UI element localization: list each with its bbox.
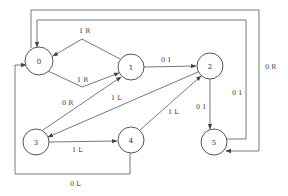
edge-label-2-to-3: 1 L xyxy=(111,94,122,102)
node-3: 3 xyxy=(23,129,49,155)
edge-label-4-to-2: 1 L xyxy=(168,108,179,116)
node-1: 1 xyxy=(118,54,144,80)
edge-label-1-to-2: 0 1 xyxy=(161,56,171,64)
edge-label-4-to-0: 0 L xyxy=(70,180,81,188)
edge-4-to-0 xyxy=(15,65,130,174)
edge-label-0-to-5: 0 R xyxy=(265,63,277,71)
node-5: 5 xyxy=(201,129,227,155)
edge-label-1-to-0: 1 R xyxy=(79,27,91,35)
edge-5-to-0 xyxy=(37,20,246,139)
state-diagram: 1 R 1 R 0 1 0 R 1 L 1 L 1 L 0 1 0 1 0 R … xyxy=(0,0,288,196)
node-label-1: 1 xyxy=(129,64,133,72)
edge-label-3-to-1: 0 R xyxy=(62,99,74,107)
node-label-4: 4 xyxy=(129,137,134,145)
edge-label-3-to-4: 1 L xyxy=(72,146,83,154)
edge-label-0-to-1: 1 R xyxy=(77,76,89,84)
node-2: 2 xyxy=(197,53,223,79)
node-label-0: 0 xyxy=(37,58,41,66)
edge-3-to-4 xyxy=(49,141,117,142)
edge-1-to-2 xyxy=(144,66,196,67)
node-label-3: 3 xyxy=(34,139,38,147)
node-label-5: 5 xyxy=(212,139,216,147)
node-0: 0 xyxy=(25,47,53,75)
edge-1-to-0 xyxy=(53,39,120,59)
edge-label-2-to-5: 0 1 xyxy=(196,103,206,111)
edge-label-5-to-0: 0 1 xyxy=(232,89,242,97)
node-4: 4 xyxy=(118,127,144,153)
node-label-2: 2 xyxy=(208,63,212,71)
